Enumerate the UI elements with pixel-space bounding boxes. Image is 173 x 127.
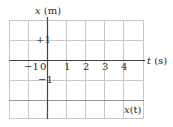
curve-label: x(t) [124, 105, 141, 115]
x-tick-minus1: −1 [24, 62, 39, 72]
x-tick-4: 4 [121, 62, 127, 72]
x-tick-2: 2 [83, 62, 89, 72]
x-tick-1: 1 [64, 62, 70, 72]
y-axis-label: x (m) [35, 6, 61, 16]
y-tick-plus1: +1 [36, 35, 51, 45]
x-tick-3: 3 [102, 62, 108, 72]
x-axis-label: t (s) [147, 56, 167, 66]
x-tick-0: 0 [40, 62, 46, 72]
y-tick-minus1: −1 [38, 75, 53, 85]
